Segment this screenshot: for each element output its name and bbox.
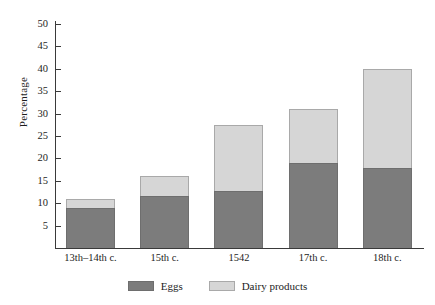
x-axis-label: 18th c. (349, 252, 426, 263)
bar-segment-eggs (140, 196, 189, 248)
bar-group (66, 199, 115, 248)
bar-segment-dairy-products (289, 109, 338, 163)
x-axis-label: 13th–14th c. (52, 252, 129, 263)
bar-segment-eggs (363, 168, 412, 248)
bar-segment-dairy-products (140, 176, 189, 196)
bar-segment-dairy-products (363, 69, 412, 168)
legend-item[interactable]: Dairy products (209, 280, 308, 292)
legend-label: Dairy products (242, 280, 308, 292)
x-axis-label: 1542 (200, 252, 277, 263)
x-axis-label: 15th c. (126, 252, 203, 263)
stacked-bar-chart: Percentage 5045403530252015105 13th–14th… (0, 0, 435, 305)
bar-group (363, 69, 412, 248)
bar-segment-dairy-products (214, 125, 263, 191)
bar-group (214, 125, 263, 248)
legend-item[interactable]: Eggs (128, 280, 183, 292)
bar-group (140, 176, 189, 248)
bar-segment-dairy-products (66, 199, 115, 208)
bar-group (289, 109, 338, 248)
dark-gray-swatch (128, 281, 154, 291)
bar-segment-eggs (66, 208, 115, 248)
x-axis-label: 17th c. (275, 252, 352, 263)
chart-legend: EggsDairy products (0, 280, 435, 292)
legend-label: Eggs (161, 280, 183, 292)
light-gray-swatch (209, 281, 235, 291)
bar-segment-eggs (289, 163, 338, 248)
bar-segment-eggs (214, 191, 263, 248)
